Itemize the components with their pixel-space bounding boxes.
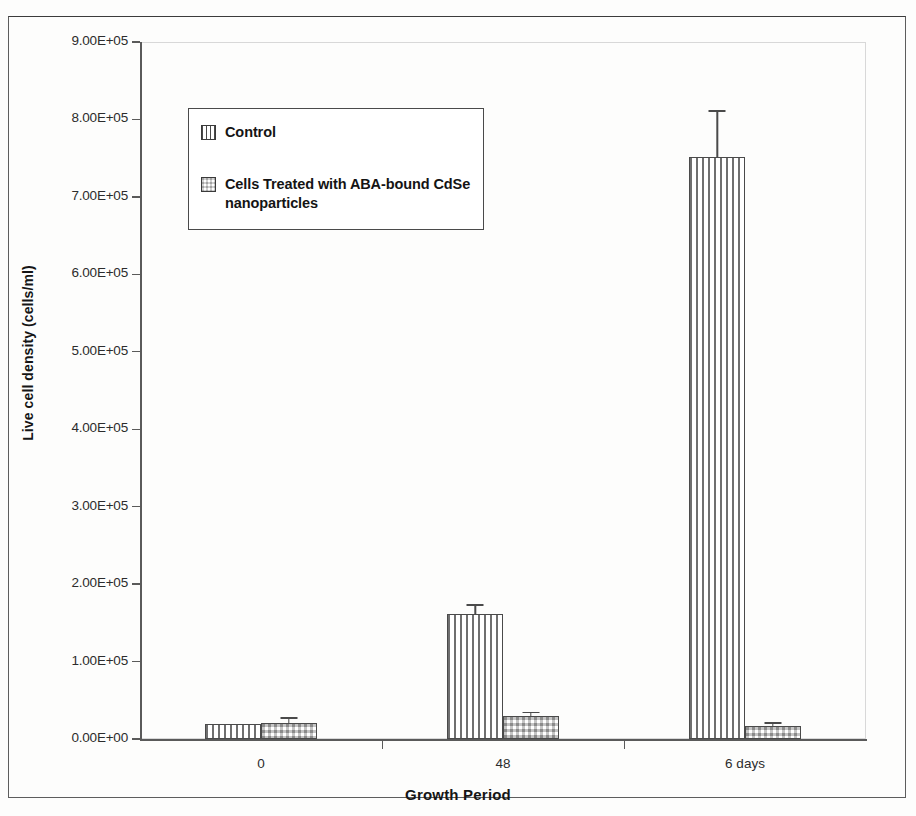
- y-axis-tick-label: 4.00E+05: [36, 420, 128, 435]
- error-bar-cap-top: [764, 722, 781, 724]
- legend-swatch-treated-icon: [201, 177, 216, 192]
- y-axis-tick-label: 7.00E+05: [36, 188, 128, 203]
- figure-container: 0.00E+001.00E+052.00E+053.00E+054.00E+05…: [0, 0, 916, 816]
- y-axis-tick-label: 2.00E+05: [36, 575, 128, 590]
- bar-treated-48: [503, 716, 559, 739]
- bar-treated-6-days: [745, 726, 801, 739]
- y-axis-line: [140, 42, 142, 740]
- x-axis-tick-label: 6 days: [624, 756, 866, 771]
- x-axis-tick-label: 48: [382, 756, 624, 771]
- y-axis-tick-label: 8.00E+05: [36, 110, 128, 125]
- y-axis-tick-label: 0.00E+00: [36, 730, 128, 745]
- error-bar-stem: [716, 110, 717, 156]
- error-bar: [447, 604, 503, 613]
- legend-swatch-control-icon: [201, 125, 216, 140]
- error-bar: [503, 712, 559, 716]
- x-axis-tick: [624, 740, 625, 749]
- bar-control-0: [205, 724, 261, 739]
- error-bar: [745, 722, 801, 726]
- bar-treated-0: [261, 723, 317, 739]
- y-axis-tick: [132, 351, 140, 352]
- error-bar-cap-top: [467, 604, 484, 606]
- y-axis-tick: [132, 274, 140, 275]
- y-axis-tick: [132, 506, 140, 507]
- y-axis-title: Live cell density (cells/ml): [20, 213, 36, 493]
- x-axis-tick-label: 0: [140, 756, 382, 771]
- bar-control-6-days: [689, 157, 745, 739]
- x-axis-tick: [382, 740, 383, 749]
- y-axis-tick-label: 3.00E+05: [36, 498, 128, 513]
- y-axis-tick-label: 9.00E+05: [36, 33, 128, 48]
- y-axis-tick-label: 6.00E+05: [36, 265, 128, 280]
- legend-item-control: Control: [201, 123, 471, 142]
- y-axis-tick: [132, 583, 140, 584]
- error-bar-cap-top: [522, 712, 539, 714]
- y-axis-tick: [132, 738, 140, 739]
- error-bar: [261, 717, 317, 722]
- error-bar: [689, 110, 745, 156]
- y-axis-tick: [132, 429, 140, 430]
- y-axis-tick: [132, 661, 140, 662]
- y-axis-tick: [132, 196, 140, 197]
- error-bar-cap-top: [709, 110, 726, 112]
- y-axis-tick: [132, 41, 140, 42]
- y-axis-tick: [132, 119, 140, 120]
- error-bar-cap-top: [280, 717, 297, 719]
- x-axis-title: Growth Period: [0, 786, 916, 803]
- legend-label-control: Control: [225, 123, 276, 142]
- bar-control-48: [447, 614, 503, 739]
- legend-label-treated: Cells Treated with ABA-bound CdSe nanopa…: [225, 175, 473, 213]
- x-axis-line: [140, 739, 867, 741]
- y-axis-tick-label: 1.00E+05: [36, 653, 128, 668]
- legend: Control Cells Treated with ABA-bound CdS…: [188, 108, 484, 230]
- legend-item-treated: Cells Treated with ABA-bound CdSe nanopa…: [201, 175, 473, 213]
- y-axis-tick-label: 5.00E+05: [36, 343, 128, 358]
